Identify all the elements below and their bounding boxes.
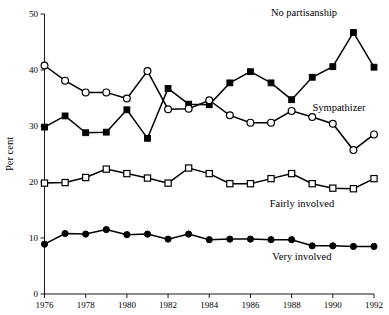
y-axis-title: Per cent: [4, 137, 15, 171]
marker-filled-circle: [206, 237, 212, 243]
x-tick-label: 1992: [365, 300, 383, 310]
marker-filled-circle: [309, 243, 315, 249]
marker-filled-circle: [144, 231, 150, 237]
y-tick-label: 20: [29, 177, 39, 187]
marker-filled-circle: [186, 231, 192, 237]
marker-open-square: [206, 171, 212, 177]
marker-filled-circle: [247, 236, 253, 242]
marker-filled-circle: [350, 243, 356, 249]
marker-open-circle: [268, 119, 275, 126]
marker-open-circle: [226, 112, 233, 119]
marker-filled-circle: [268, 237, 274, 243]
marker-open-circle: [247, 119, 254, 126]
marker-filled-square: [103, 129, 109, 135]
marker-filled-square: [371, 64, 377, 70]
marker-filled-square: [227, 80, 233, 86]
marker-open-square: [247, 181, 253, 187]
series-labels-group: No partisanshipSympathizerFairly involve…: [270, 7, 366, 262]
data-series-group: [41, 30, 377, 250]
marker-filled-square: [309, 74, 315, 80]
x-tick-label: 1988: [283, 300, 302, 310]
marker-filled-circle: [330, 243, 336, 249]
series-label-sympathizer: Sympathizer: [312, 102, 366, 113]
series-fairly-involved: [41, 165, 377, 192]
marker-open-circle: [82, 89, 89, 96]
marker-open-square: [309, 181, 315, 187]
marker-open-square: [124, 171, 130, 177]
x-tick-label: 1990: [324, 300, 343, 310]
marker-open-square: [83, 174, 89, 180]
marker-open-square: [186, 165, 192, 171]
marker-open-circle: [123, 95, 130, 102]
line-chart: 01020304050 1976197819801982198419861988…: [0, 0, 389, 315]
x-tick-label: 1982: [159, 300, 177, 310]
marker-open-square: [144, 175, 150, 181]
marker-open-circle: [206, 97, 213, 104]
marker-open-square: [227, 181, 233, 187]
marker-filled-circle: [371, 243, 377, 249]
marker-open-circle: [185, 105, 192, 112]
marker-open-square: [289, 171, 295, 177]
marker-open-circle: [288, 107, 295, 114]
y-axis-ticks: 01020304050: [29, 9, 45, 299]
marker-open-circle: [144, 68, 151, 75]
marker-filled-square: [42, 124, 48, 130]
marker-filled-circle: [289, 237, 295, 243]
x-tick-label: 1980: [118, 300, 137, 310]
marker-open-circle: [41, 62, 48, 69]
marker-filled-square: [165, 86, 171, 92]
series-very-involved: [41, 227, 377, 250]
marker-filled-square: [268, 80, 274, 86]
marker-open-square: [62, 179, 68, 185]
marker-open-square: [350, 186, 356, 192]
marker-open-circle: [165, 106, 172, 113]
y-tick-label: 30: [29, 121, 39, 131]
marker-filled-circle: [103, 227, 109, 233]
marker-filled-square: [289, 97, 295, 103]
x-tick-label: 1978: [77, 300, 96, 310]
x-tick-label: 1976: [36, 300, 55, 310]
marker-filled-square: [248, 69, 254, 75]
series-line: [45, 32, 375, 138]
marker-open-circle: [62, 77, 69, 84]
marker-filled-square: [62, 113, 68, 119]
marker-filled-square: [124, 107, 130, 113]
marker-open-circle: [309, 114, 316, 121]
marker-open-square: [330, 185, 336, 191]
y-tick-label: 0: [34, 289, 39, 299]
marker-filled-square: [83, 130, 89, 136]
marker-open-circle: [371, 131, 378, 138]
y-tick-label: 10: [29, 233, 39, 243]
marker-open-square: [371, 176, 377, 182]
marker-open-circle: [329, 120, 336, 127]
marker-filled-circle: [165, 236, 171, 242]
x-tick-label: 1984: [200, 300, 219, 310]
marker-filled-square: [145, 135, 151, 141]
marker-filled-square: [330, 64, 336, 70]
marker-filled-square: [351, 30, 357, 36]
marker-filled-circle: [227, 236, 233, 242]
series-label-very-involved: Very involved: [272, 251, 332, 262]
x-tick-label: 1986: [241, 300, 260, 310]
marker-filled-circle: [83, 231, 89, 237]
marker-open-square: [165, 180, 171, 186]
marker-filled-circle: [124, 232, 130, 238]
y-axis-title-group: Per cent: [4, 137, 15, 171]
chart-container: 01020304050 1976197819801982198419861988…: [0, 0, 389, 315]
series-label-no-partisanship: No partisanship: [271, 7, 337, 18]
y-tick-label: 50: [29, 9, 39, 19]
marker-open-square: [268, 176, 274, 182]
marker-filled-circle: [41, 241, 47, 247]
marker-open-circle: [350, 147, 357, 154]
x-axis-ticks: 197619781980198219841986198819901992: [36, 294, 384, 310]
marker-open-circle: [103, 89, 110, 96]
marker-filled-circle: [62, 230, 68, 236]
series-no-partisanship: [42, 30, 377, 142]
series-label-fairly-involved: Fairly involved: [270, 198, 335, 209]
marker-open-square: [103, 166, 109, 172]
y-tick-label: 40: [29, 65, 39, 75]
marker-open-square: [41, 180, 47, 186]
